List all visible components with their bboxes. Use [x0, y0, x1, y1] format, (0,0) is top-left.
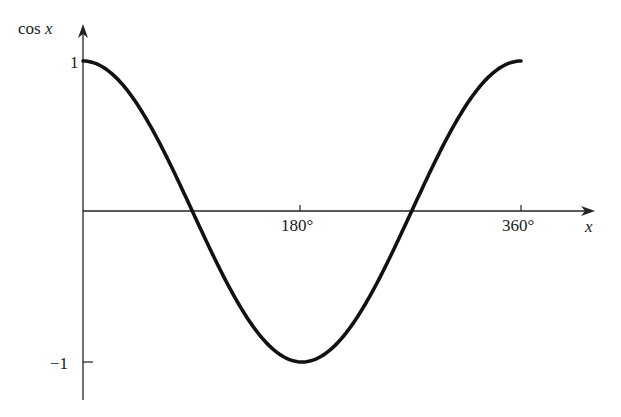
x-tick-label-360: 360° [502, 216, 534, 235]
y-tick-label-neg1: −1 [50, 354, 68, 373]
cosine-chart: cos x 1 −1 180° 360° x [0, 0, 621, 417]
x-axis-label: x [584, 217, 593, 236]
y-axis-label: cos x [18, 19, 53, 38]
y-tick-label-1: 1 [70, 53, 79, 72]
x-tick-label-180: 180° [281, 216, 313, 235]
